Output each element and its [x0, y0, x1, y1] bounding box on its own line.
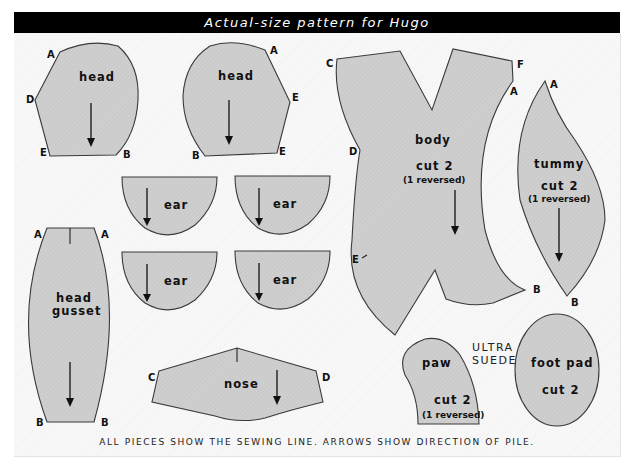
point-label: D — [26, 94, 34, 105]
piece-label: head — [79, 70, 115, 84]
cut-note: (1 reversed) — [403, 175, 465, 185]
material-note-line2: SUEDE — [472, 354, 517, 367]
head-gusset-piece: A A B B head gusset — [29, 228, 110, 428]
ear-piece: ear — [235, 176, 330, 234]
point-label: D — [349, 146, 357, 157]
cut-count: cut 2 — [542, 383, 580, 397]
piece-label: gusset — [52, 304, 101, 318]
point-label: A — [47, 49, 55, 60]
ear-piece: ear — [235, 251, 330, 309]
point-label: E — [40, 147, 47, 158]
foot-pad-piece: foot pad cut 2 — [515, 314, 599, 426]
piece-label: tummy — [534, 157, 584, 171]
point-label: D — [322, 372, 330, 383]
material-note-line1: ULTRA — [472, 341, 514, 354]
piece-label: ear — [164, 198, 188, 212]
head-right-piece: A E E B head — [183, 43, 299, 161]
piece-label: foot pad — [531, 356, 594, 370]
piece-label: body — [415, 133, 451, 147]
cut-count: cut 2 — [416, 159, 454, 173]
piece-label: paw — [422, 356, 452, 370]
piece-label: ear — [273, 197, 297, 211]
point-label: A — [550, 79, 558, 90]
point-label: B — [101, 417, 109, 428]
point-label: B — [36, 417, 44, 428]
point-label: C — [148, 372, 155, 383]
ear-piece: ear — [122, 252, 217, 310]
cut-note: (1 reversed) — [422, 410, 484, 420]
point-label: A — [510, 86, 518, 97]
pattern-pieces: A D E B head A E E B head ear ear ear ea… — [0, 0, 634, 473]
tummy-piece: A B tummy cut 2 (1 reversed) — [518, 79, 605, 308]
point-label: B — [571, 297, 579, 308]
nose-piece: C D nose — [148, 348, 330, 421]
point-label: C — [326, 58, 333, 69]
point-label: A — [270, 45, 278, 56]
footer-note: ALL PIECES SHOW THE SEWING LINE. ARROWS … — [14, 437, 620, 447]
point-label: F — [517, 59, 524, 70]
ear-piece: ear — [122, 177, 217, 235]
cut-note: (1 reversed) — [528, 194, 590, 204]
cut-count: cut 2 — [541, 179, 579, 193]
head-left-piece: A D E B head — [26, 43, 138, 160]
point-label: E — [279, 146, 286, 157]
piece-label: head — [56, 291, 92, 305]
cut-count: cut 2 — [434, 393, 472, 407]
point-label: E — [292, 92, 299, 103]
piece-label: nose — [224, 377, 259, 391]
point-label: E — [352, 254, 359, 265]
body-piece: C F A D E B body cut 2 (1 reversed) — [326, 49, 541, 335]
point-label: A — [101, 229, 109, 240]
point-label: B — [533, 284, 541, 295]
piece-label: head — [218, 69, 254, 83]
piece-label: ear — [273, 273, 297, 287]
point-label: B — [192, 150, 200, 161]
point-label: B — [123, 149, 131, 160]
piece-label: ear — [164, 274, 188, 288]
point-label: A — [34, 229, 42, 240]
